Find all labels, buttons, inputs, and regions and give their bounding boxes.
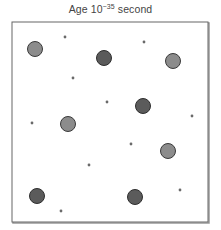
large-particle-light (61, 117, 76, 132)
large-particle-dark (136, 99, 151, 114)
small-particle (88, 164, 91, 167)
small-particle (106, 101, 109, 104)
small-particle (191, 115, 194, 118)
large-particle-light (166, 54, 181, 69)
small-particle (72, 77, 75, 80)
small-particle (143, 41, 146, 44)
small-particle (64, 36, 67, 39)
small-particle (31, 122, 34, 125)
large-particle-light (28, 42, 43, 57)
large-particle-dark (30, 189, 45, 204)
small-particle (130, 143, 133, 146)
small-particle (179, 189, 182, 192)
large-particle-dark (128, 190, 143, 205)
particle-diagram (0, 0, 221, 230)
small-particle (60, 210, 63, 213)
large-particle-dark (97, 51, 112, 66)
large-particle-light (161, 144, 176, 159)
